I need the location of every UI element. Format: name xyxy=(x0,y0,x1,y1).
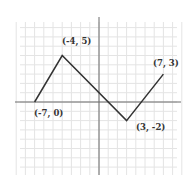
point-label-p3: (3, -2) xyxy=(136,122,165,133)
coordinate-graph: (-7, 0) (-4, 5) (3, -2) (7, 3) xyxy=(0,0,189,175)
point-label-p1: (-7, 0) xyxy=(34,108,63,119)
point-label-p4: (7, 3) xyxy=(153,58,179,69)
point-label-p2: (-4, 5) xyxy=(62,36,91,47)
